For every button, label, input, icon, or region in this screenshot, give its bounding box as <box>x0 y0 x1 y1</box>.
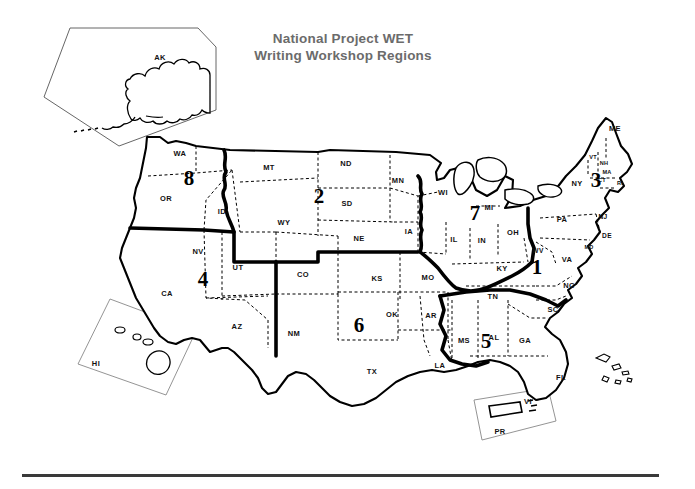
state-label-ut: UT <box>233 263 244 272</box>
inset-label-alaska: AK <box>154 53 166 62</box>
region-number-5[interactable]: 5 <box>481 331 492 352</box>
region-number-1[interactable]: 1 <box>532 257 543 278</box>
state-label-in: IN <box>478 236 486 245</box>
footer-divider <box>22 474 659 477</box>
state-label-ma: MA <box>602 169 611 175</box>
state-label-ca: CA <box>161 289 173 298</box>
state-label-mt: MT <box>263 163 275 172</box>
state-label-ga: GA <box>519 336 531 345</box>
state-label-ia: IA <box>405 227 413 236</box>
inset-label-puerto-rico: PR <box>494 427 505 436</box>
lake-ontario <box>538 184 562 197</box>
region-number-4[interactable]: 4 <box>198 269 209 290</box>
hawaii-island-oahu <box>133 334 141 340</box>
state-label-oh: OH <box>507 228 519 237</box>
region-number-3[interactable]: 3 <box>591 170 602 191</box>
state-label-wi: WI <box>438 188 448 197</box>
state-label-sc: SC <box>547 305 558 314</box>
state-label-md: MD <box>584 244 593 250</box>
state-label-or: OR <box>160 194 172 203</box>
inset-label-virgin-islands: VI <box>524 397 532 406</box>
bahamas-shapes <box>596 354 632 384</box>
state-label-mn: MN <box>392 176 404 185</box>
state-label-nd: ND <box>340 159 352 168</box>
state-label-wv: WV <box>532 247 543 254</box>
state-label-fl: FL <box>556 373 566 382</box>
state-label-co: CO <box>297 270 309 279</box>
state-label-nc: NC <box>563 281 575 290</box>
state-label-ri: RI <box>617 180 623 186</box>
state-label-pa: PA <box>557 215 568 224</box>
state-label-ky: KY <box>496 264 507 273</box>
state-label-nj: NJ <box>598 213 607 220</box>
state-label-mi: MI <box>484 203 493 212</box>
state-label-tn: TN <box>488 292 499 301</box>
state-label-ar: AR <box>425 311 437 320</box>
hawaii-island-maui <box>143 339 153 345</box>
state-label-id: ID <box>218 207 226 216</box>
state-label-wa: WA <box>174 149 187 158</box>
state-label-ny: NY <box>571 179 582 188</box>
lake-superior-huron <box>476 158 506 182</box>
alaska-inset <box>44 28 216 146</box>
bahamas-islands <box>596 354 632 384</box>
lake-erie <box>505 189 534 205</box>
state-label-sd: SD <box>341 199 352 208</box>
state-label-ms: MS <box>458 336 470 345</box>
state-label-la: LA <box>435 361 446 370</box>
state-label-ne: NE <box>353 234 364 243</box>
state-label-va: VA <box>562 255 573 264</box>
state-label-ok: OK <box>386 310 398 319</box>
state-label-de: DE <box>602 232 612 239</box>
region-number-6[interactable]: 6 <box>354 315 365 336</box>
region-number-7[interactable]: 7 <box>470 203 481 224</box>
state-label-wy: WY <box>278 218 291 227</box>
state-label-il: IL <box>450 235 457 244</box>
state-label-nm: NM <box>288 329 300 338</box>
state-label-tx: TX <box>367 367 377 376</box>
region-number-2[interactable]: 2 <box>314 186 325 207</box>
state-label-mo: MO <box>422 273 435 282</box>
state-label-nh: NH <box>600 160 608 166</box>
hawaii-island-big-island <box>147 351 170 375</box>
state-label-vt: VT <box>589 154 597 160</box>
region-number-8[interactable]: 8 <box>184 168 195 189</box>
project-wet-regions-map-page: National Project WET Writing Workshop Re… <box>0 0 695 489</box>
state-label-az: AZ <box>232 322 243 331</box>
state-label-nv: NV <box>192 247 203 256</box>
inset-label-hawaii: HI <box>92 359 100 368</box>
hawaii-island-kauai <box>115 327 125 333</box>
state-label-me: ME <box>609 124 621 133</box>
state-label-ks: KS <box>371 274 382 283</box>
